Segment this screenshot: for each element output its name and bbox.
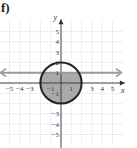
x-axis-arrow-icon	[120, 81, 125, 86]
coordinate-plane: −5−4−3−1134554321−1−3−4−5xy	[0, 0, 137, 148]
x-tick-label: 3	[90, 85, 94, 93]
y-tick-label: 1	[56, 69, 60, 77]
y-tick-label: −3	[52, 110, 60, 118]
x-tick-label: 5	[111, 85, 115, 93]
x-tick-label: −4	[16, 85, 24, 93]
y-tick-label: 3	[56, 49, 60, 57]
y-tick-label: 2	[56, 59, 60, 67]
x-tick-label: 1	[70, 85, 74, 93]
x-axis-label: x	[120, 86, 125, 95]
x-tick-label: −5	[6, 85, 14, 93]
y-tick-label: −4	[52, 121, 60, 129]
y-tick-label: −1	[52, 90, 60, 98]
x-tick-label: 4	[100, 85, 104, 93]
y-axis-label: y	[52, 13, 57, 22]
y-tick-label: 4	[56, 38, 60, 46]
x-tick-label: −3	[26, 85, 34, 93]
y-tick-label: 5	[56, 28, 60, 36]
y-tick-label: −5	[52, 131, 60, 139]
y-axis-arrow-icon	[59, 19, 64, 24]
